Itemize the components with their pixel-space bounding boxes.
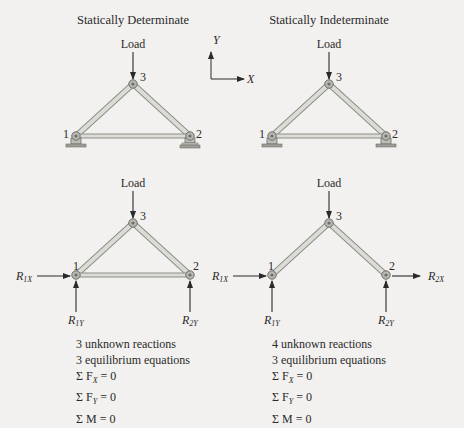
y-axis-label: Y: [213, 33, 221, 47]
title-indeterminate: Statically Indeterminate: [269, 13, 389, 27]
truss-diagram: Statically Determinate Statically Indete…: [0, 0, 464, 428]
load-label: Load: [121, 176, 146, 190]
notes-indeterminate: 4 unknown reactions 3 equilibrium equati…: [272, 336, 386, 427]
node-2-label: 2: [196, 127, 202, 141]
reaction-r1x-label: R1X: [211, 269, 229, 284]
equation-sum-fx: Σ FX = 0: [272, 368, 386, 389]
joint-3-icon: [325, 219, 333, 227]
load-label: Load: [317, 176, 342, 190]
truss-indeterminate-supported: Load 3 1 2: [259, 37, 398, 147]
notes-determinate: 3 unknown reactions 3 equilibrium equati…: [76, 336, 190, 427]
joint-1-icon: [268, 132, 276, 140]
equation-sum-m: Σ M = 0: [272, 411, 386, 427]
reaction-r2y-label: R2Y: [181, 313, 199, 328]
node-1-label: 1: [268, 259, 274, 273]
equations-text: 3 equilibrium equations: [76, 352, 190, 368]
node-1-label: 1: [63, 127, 69, 141]
node-1-label: 1: [73, 259, 79, 273]
joint-2-icon: [186, 132, 194, 140]
reaction-r1y-label: R1Y: [67, 313, 85, 328]
reaction-r1y-label: R1Y: [263, 313, 281, 328]
reaction-r2y-label: R2Y: [377, 313, 395, 328]
node-3-label: 3: [336, 70, 342, 84]
unknowns-text: 3 unknown reactions: [76, 336, 190, 352]
unknowns-text: 4 unknown reactions: [272, 336, 386, 352]
joint-1-icon: [72, 132, 80, 140]
load-label: Load: [121, 37, 146, 51]
members: [76, 223, 190, 275]
node-3-label: 3: [140, 70, 146, 84]
axes-icon: Y X: [211, 33, 255, 86]
node-1-label: 1: [259, 127, 265, 141]
load-label: Load: [317, 37, 342, 51]
joint-3-icon: [325, 80, 333, 88]
joint-3-icon: [129, 80, 137, 88]
members: [272, 84, 386, 136]
node-3-label: 3: [336, 209, 342, 223]
reaction-r2x-label: R2X: [427, 269, 445, 284]
members: [272, 223, 386, 275]
reaction-r1x-label: R1X: [15, 269, 33, 284]
equation-sum-m: Σ M = 0: [76, 411, 190, 427]
joint-2-icon: [382, 132, 390, 140]
equation-sum-fy: Σ FY = 0: [272, 389, 386, 410]
joint-3-icon: [129, 219, 137, 227]
fbd-determinate: Load 3 1 2 R1X R1Y R2Y: [15, 176, 199, 328]
equation-sum-fx: Σ FX = 0: [76, 368, 190, 389]
title-determinate: Statically Determinate: [77, 13, 190, 27]
fbd-indeterminate: Load 3 1 2 R1X R2X R1Y R2Y: [211, 176, 445, 328]
node-3-label: 3: [140, 209, 146, 223]
node-2-label: 2: [392, 127, 398, 141]
node-2-label: 2: [193, 259, 199, 273]
node-2-label: 2: [389, 259, 395, 273]
equation-sum-fy: Σ FY = 0: [76, 389, 190, 410]
members: [76, 84, 190, 136]
equations-text: 3 equilibrium equations: [272, 352, 386, 368]
x-axis-label: X: [246, 72, 255, 86]
truss-determinate-supported: Load 3 1 2: [63, 37, 202, 148]
